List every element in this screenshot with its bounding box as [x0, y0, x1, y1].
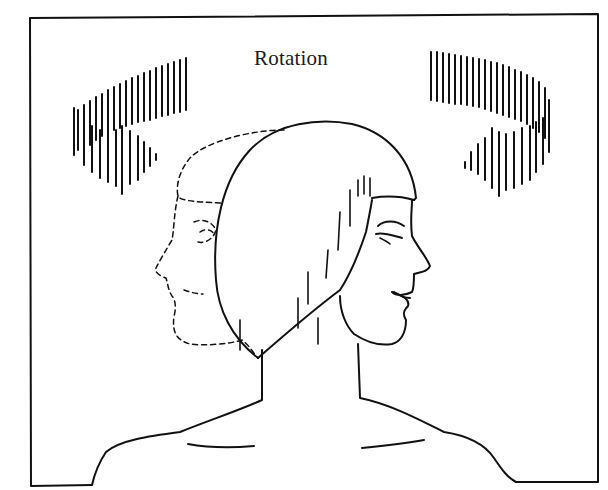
- figure-title: Rotation: [254, 46, 328, 71]
- frame-border: [30, 14, 598, 486]
- left-rotation-arrow-icon: [74, 58, 186, 194]
- dashed-head-left-profile: [156, 130, 284, 358]
- solid-head-right-profile: [215, 122, 430, 358]
- right-rotation-arrow-icon: [431, 52, 549, 196]
- neck-and-shoulders: [92, 344, 516, 485]
- illustration-drawing: [0, 0, 608, 490]
- rotation-illustration: Rotation: [0, 0, 608, 490]
